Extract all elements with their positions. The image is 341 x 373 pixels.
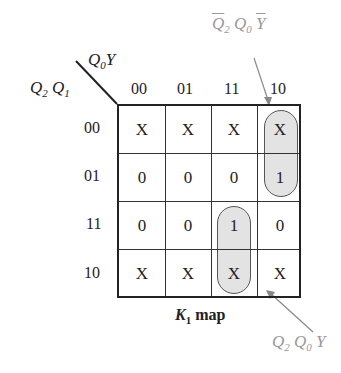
cell: X [257, 106, 303, 154]
cell: X [211, 106, 257, 154]
cell: X [119, 250, 165, 298]
cell: X [119, 106, 165, 154]
cell: 0 [119, 202, 165, 250]
col-header: 00 [131, 80, 147, 98]
cell: 0 [165, 154, 211, 202]
cell: X [211, 250, 257, 298]
cell: 0 [165, 202, 211, 250]
cell: X [165, 250, 211, 298]
bottom-group-term: Q2 Q0 Y [272, 332, 326, 353]
row-variables-label: Q2 Q1 [30, 78, 70, 99]
arrow-bottom-line [270, 293, 313, 332]
row-header: 11 [86, 215, 101, 233]
cell: 0 [211, 154, 257, 202]
col-header: 10 [270, 80, 286, 98]
col-variables-label: Q0Y [88, 50, 115, 71]
kmap-grid: X X X X 0 0 0 1 0 0 1 0 X X X X [117, 104, 301, 298]
map-caption: K1 map [175, 306, 225, 326]
row-header: 01 [84, 167, 100, 185]
col-header: 01 [177, 80, 193, 98]
cell: X [257, 250, 303, 298]
cell: 0 [119, 154, 165, 202]
row-header: 00 [84, 119, 100, 137]
col-header: 11 [224, 80, 239, 98]
row-header: 10 [84, 264, 100, 282]
cell: 0 [257, 202, 303, 250]
top-group-term: Q2 Q0 Y [212, 14, 266, 35]
cell: 1 [257, 154, 303, 202]
cell: X [165, 106, 211, 154]
arrow-top-line [254, 58, 269, 103]
cell: 1 [211, 202, 257, 250]
